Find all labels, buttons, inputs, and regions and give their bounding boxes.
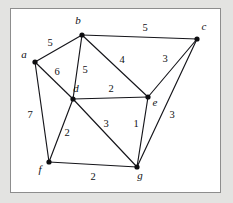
edge-f-g bbox=[49, 162, 137, 167]
edge-weight-d-e: 2 bbox=[108, 83, 113, 94]
edge-weight-c-e: 3 bbox=[162, 53, 167, 64]
vertex-label-a: a bbox=[21, 48, 27, 60]
vertex-label-e: e bbox=[153, 96, 158, 108]
edge-weight-d-g: 3 bbox=[103, 118, 108, 129]
edge-c-e bbox=[148, 39, 197, 97]
vertex-d bbox=[70, 96, 75, 101]
edge-b-c bbox=[82, 35, 197, 39]
diagram-root: 5675543322312 abcdefg bbox=[0, 0, 233, 203]
edge-weight-d-f: 2 bbox=[64, 127, 69, 138]
edge-b-e bbox=[82, 35, 148, 97]
vertex-label-c: c bbox=[202, 20, 207, 32]
edge-weight-b-c: 5 bbox=[142, 22, 147, 33]
edges-layer bbox=[35, 35, 197, 167]
vertex-label-g: g bbox=[137, 169, 143, 181]
vertex-f bbox=[46, 159, 51, 164]
edge-weight-a-f: 7 bbox=[27, 109, 32, 120]
vertex-c bbox=[194, 36, 199, 41]
graph-canvas: 5675543322312 abcdefg bbox=[0, 0, 233, 203]
edge-weight-f-g: 2 bbox=[90, 171, 95, 182]
edge-a-f bbox=[35, 62, 49, 162]
edge-d-e bbox=[73, 97, 148, 99]
edge-d-g bbox=[73, 99, 137, 167]
edge-weight-b-e: 4 bbox=[119, 54, 125, 65]
vertex-b bbox=[79, 32, 84, 37]
vertex-label-b: b bbox=[75, 14, 81, 26]
vertex-e bbox=[145, 94, 150, 99]
edge-a-b bbox=[35, 35, 82, 62]
vertices-layer bbox=[32, 32, 199, 169]
edge-weight-a-d: 6 bbox=[54, 66, 59, 77]
edge-weight-e-g: 1 bbox=[133, 118, 138, 129]
edge-weight-b-d: 5 bbox=[82, 64, 87, 75]
edge-weight-c-g: 3 bbox=[169, 109, 174, 120]
edge-weight-a-b: 5 bbox=[47, 37, 52, 48]
vertex-label-f: f bbox=[38, 163, 43, 175]
vertex-a bbox=[32, 59, 37, 64]
vertex-label-d: d bbox=[73, 82, 79, 94]
